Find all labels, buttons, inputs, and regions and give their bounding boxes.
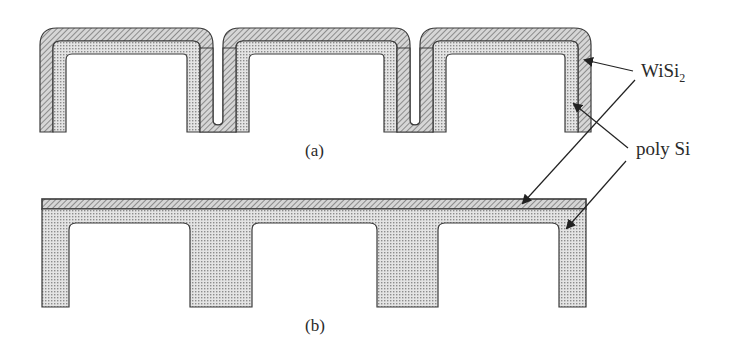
cross-section-diagram — [0, 0, 735, 349]
panel-b-structure — [42, 199, 586, 307]
caption-a: (a) — [305, 141, 324, 161]
arrow-polysi-b — [567, 161, 626, 228]
poly-si-layer-a — [236, 41, 397, 132]
arrow-wisi2-a — [585, 60, 633, 71]
wisi2-label: WiSi2 — [641, 60, 685, 86]
poly-si-layer-a — [433, 41, 578, 132]
panel-a-structure — [40, 28, 591, 132]
wisi2-label-main: WiSi — [641, 60, 679, 81]
poly-si-layer-a — [53, 41, 200, 132]
wisi2-layer-b — [42, 199, 586, 209]
poly-si-label: poly Si — [636, 138, 690, 160]
caption-b: (b) — [305, 316, 325, 336]
poly-si-layer-b — [42, 209, 586, 307]
wisi2-label-subscript: 2 — [679, 71, 685, 85]
